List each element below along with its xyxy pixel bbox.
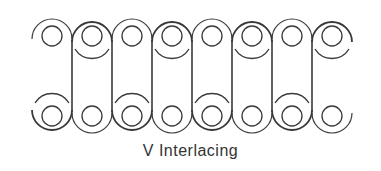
- bottom-pin-circle: [42, 106, 62, 126]
- bottom-link-ring: [32, 110, 72, 130]
- bottom-pin-circle: [202, 106, 222, 126]
- top-link-ring-lower: [155, 49, 189, 58]
- top-link-ring-lower: [235, 49, 269, 58]
- top-link-ring: [152, 22, 192, 42]
- bottom-link-arc: [312, 113, 352, 133]
- bottom-pin-circle: [282, 106, 302, 126]
- diagram-caption: V Interlacing: [0, 142, 381, 160]
- bottom-link-ring-upper: [195, 94, 229, 103]
- top-link-arc: [192, 19, 232, 39]
- bottom-pin-circle: [122, 106, 142, 126]
- bottom-pin-circle: [82, 106, 102, 126]
- top-pin-circle: [42, 26, 62, 46]
- top-pin-circle: [242, 26, 262, 46]
- bottom-link-ring: [112, 110, 152, 130]
- top-pin-circle: [322, 26, 342, 46]
- top-pin-circle: [162, 26, 182, 46]
- top-link-ring: [232, 22, 272, 42]
- top-link-arc: [272, 19, 312, 39]
- bottom-link-arc: [72, 113, 112, 133]
- top-link-ring: [312, 22, 352, 42]
- bottom-link-ring-upper: [35, 94, 69, 103]
- top-pin-circle: [122, 26, 142, 46]
- top-link-ring-lower: [75, 49, 109, 58]
- top-pin-circle: [282, 26, 302, 46]
- bottom-link-ring: [192, 110, 232, 130]
- bottom-link-ring-upper: [275, 94, 309, 103]
- top-pin-circle: [82, 26, 102, 46]
- top-link-arc: [32, 19, 72, 39]
- top-link-ring: [72, 22, 112, 42]
- bottom-link-arc: [232, 113, 272, 133]
- top-link-ring-lower: [315, 49, 349, 58]
- top-pin-circle: [202, 26, 222, 46]
- bottom-pin-circle: [242, 106, 262, 126]
- bottom-link-ring-upper: [115, 94, 149, 103]
- bottom-link-ring: [272, 110, 312, 130]
- bottom-pin-circle: [162, 106, 182, 126]
- top-link-arc: [112, 19, 152, 39]
- bottom-link-arc: [152, 113, 192, 133]
- bottom-pin-circle: [322, 106, 342, 126]
